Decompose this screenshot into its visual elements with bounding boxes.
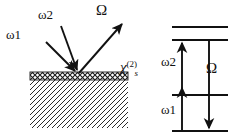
nonlinear-medium-bulk <box>30 80 128 128</box>
figure-root: ω1 ω2 Ω χ(2)s ω2 ω1 Ω <box>0 0 238 139</box>
beam-omega1-line <box>46 42 75 71</box>
beam-big-omega-line <box>79 24 122 73</box>
energy-level-group <box>172 27 228 131</box>
beam-omega2-line <box>61 26 77 70</box>
surface-layer <box>30 72 128 80</box>
label-big-omega-transition: Ω <box>206 61 217 76</box>
chi-subscript: s <box>134 68 138 78</box>
label-big-omega-beam: Ω <box>96 3 107 18</box>
beam-geometry-group <box>30 24 128 128</box>
label-omega1-transition: ω1 <box>161 103 176 116</box>
label-chi-surface-susceptibility: χ(2)s <box>120 60 138 78</box>
label-omega2-beam: ω2 <box>38 8 53 21</box>
chi-symbol: χ <box>120 59 127 75</box>
label-omega1-beam: ω1 <box>6 28 21 41</box>
figure-canvas <box>0 0 238 139</box>
label-omega2-transition: ω2 <box>161 55 176 68</box>
